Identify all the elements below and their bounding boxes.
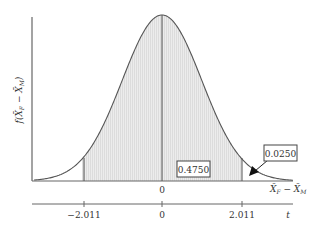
x-axis-label: X̄F − X̄M: [269, 183, 307, 195]
area-annotation-tail: 0.0250: [249, 145, 297, 176]
svg-text:0.0250: 0.0250: [265, 149, 297, 159]
svg-text:X̄F − X̄M: X̄F − X̄M: [269, 183, 307, 195]
t-axis-label: t: [286, 210, 290, 220]
arrow-line: [255, 160, 268, 171]
y-axis-label: f(X̄F − X̄M): [13, 76, 25, 124]
t-tick-label-zero: 0: [159, 210, 165, 220]
area-annotation-center: 0.4750: [177, 161, 210, 177]
chart-container: 0 X̄F − X̄M −2.011 0 2.011 t f(X̄F − X̄M…: [0, 0, 324, 230]
svg-text:0.4750: 0.4750: [178, 165, 210, 175]
t-tick-label-pos: 2.011: [229, 210, 255, 220]
svg-text:f(X̄F − X̄M): f(X̄F − X̄M): [13, 76, 25, 124]
x-tick-zero: 0: [159, 185, 165, 195]
t-tick-label-neg: −2.011: [67, 210, 100, 220]
